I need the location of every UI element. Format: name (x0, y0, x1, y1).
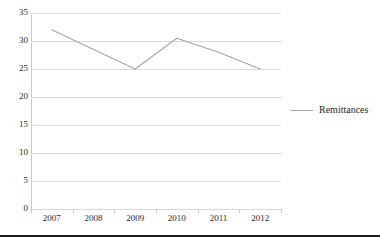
series-polyline (52, 30, 260, 69)
y-tick-label: 20 (2, 92, 28, 101)
x-tick-mark (198, 209, 199, 213)
y-tick-label: 30 (2, 36, 28, 45)
x-tick-label: 2010 (156, 214, 198, 223)
y-tick-label: 0 (2, 204, 28, 213)
x-tick-mark (114, 209, 115, 213)
x-tick-mark (156, 209, 157, 213)
y-tick-label: 10 (2, 148, 28, 157)
y-tick-label: 25 (2, 64, 28, 73)
legend-line-swatch (291, 110, 313, 111)
legend-label-remittances: Remittances (319, 105, 368, 115)
x-tick-mark (281, 209, 282, 213)
plot-area (31, 13, 281, 209)
x-tick-label: 2008 (73, 214, 115, 223)
chart-figure: 35302520151050 Remittances 2007200820092… (0, 0, 380, 248)
x-tick-label: 2007 (31, 214, 73, 223)
x-tick-label: 2011 (198, 214, 240, 223)
y-axis-labels: 35302520151050 (0, 13, 28, 209)
series-line-remittances (31, 13, 281, 209)
x-tick-label: 2012 (239, 214, 281, 223)
y-tick-label: 15 (2, 120, 28, 129)
x-tick-label: 2009 (114, 214, 156, 223)
y-tick-label: 5 (2, 176, 28, 185)
chart-legend: Remittances (291, 105, 368, 115)
bottom-divider (0, 235, 380, 237)
x-tick-mark (73, 209, 74, 213)
x-tick-mark (31, 209, 32, 213)
y-tick-label: 35 (2, 8, 28, 17)
x-tick-mark (239, 209, 240, 213)
